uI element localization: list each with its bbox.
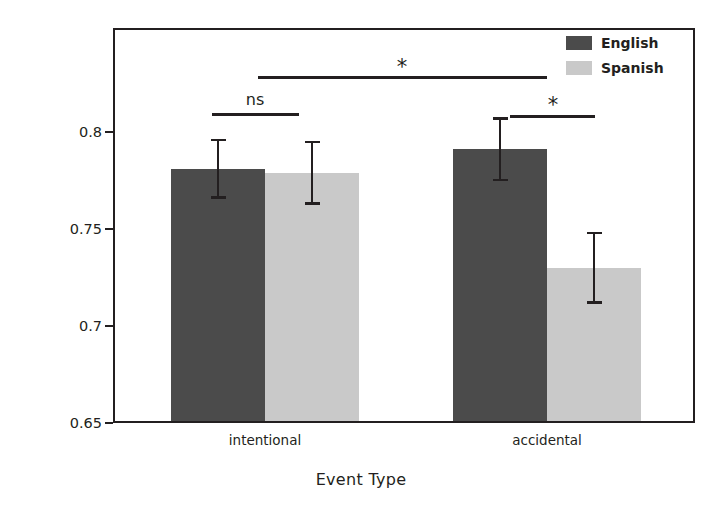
legend-swatch-spanish [566, 61, 592, 75]
y-tick-label-2: 0.7 [42, 318, 102, 334]
x-axis-title: Event Type [0, 470, 722, 489]
bar-accidental-english [453, 149, 547, 421]
error-bar-accidental-spanish [586, 232, 602, 304]
x-tick-label-intentional: intentional [229, 432, 301, 448]
error-bar-intentional-english [210, 139, 226, 199]
legend-swatch-english [566, 36, 592, 50]
error-stem [593, 232, 596, 304]
x-tick-label-accidental: accidental [512, 432, 582, 448]
significance-line-intentional [212, 113, 299, 116]
error-cap-bottom [305, 202, 320, 205]
y-tick-mark-3 [105, 422, 113, 424]
bar-intentional-spanish [265, 173, 359, 421]
y-tick-mark-0 [105, 131, 113, 133]
error-stem [217, 139, 220, 199]
error-stem [311, 141, 314, 205]
legend: English Spanish [566, 30, 686, 80]
error-cap-bottom [493, 179, 508, 182]
y-tick-mark-1 [105, 228, 113, 230]
bar-intentional-english [171, 169, 265, 421]
significance-label-groups: * [397, 57, 408, 78]
significance-label-accidental: * [548, 95, 559, 116]
y-tick-label-3: 0.65 [42, 415, 102, 431]
error-stem [499, 117, 502, 181]
legend-label-spanish: Spanish [601, 60, 664, 76]
legend-item-english[interactable]: English [566, 30, 686, 55]
error-cap-bottom [211, 196, 226, 199]
error-cap-bottom [587, 301, 602, 304]
error-bar-accidental-english [492, 117, 508, 181]
significance-label-intentional: ns [246, 92, 264, 108]
legend-item-spanish[interactable]: Spanish [566, 55, 686, 80]
legend-label-english: English [601, 35, 658, 51]
bar-chart-figure: Proportion correct 0.8 0.75 0.7 0.65 [0, 0, 722, 512]
error-bar-intentional-spanish [304, 141, 320, 205]
y-tick-mark-2 [105, 325, 113, 327]
y-tick-label-1: 0.75 [42, 221, 102, 237]
y-tick-label-0: 0.8 [42, 124, 102, 140]
